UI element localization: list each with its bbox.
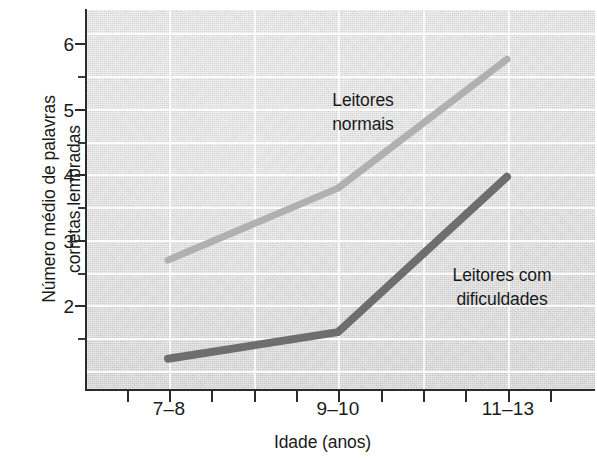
y-tick-label-4: 4: [34, 166, 74, 185]
series-label-leitores-normais: Leitores normais: [273, 88, 453, 136]
y-tick-label-2: 2: [34, 297, 74, 316]
series-lines: [87, 10, 595, 389]
x-tick-4: [254, 391, 256, 402]
y-tick-label-3: 3: [34, 232, 74, 251]
x-tick-label-9-10: 9–10: [278, 398, 398, 420]
x-axis-title: Idade (anos): [0, 432, 597, 453]
x-tick-label-11-13: 11–13: [448, 398, 568, 420]
x-axis-line: [85, 389, 595, 391]
y-tick-label-6: 6: [34, 35, 74, 54]
series-label-leitores-com-dificuldades: Leitores com dificuldades: [387, 263, 595, 311]
chart-figure: Número médio de palavras corretas lembra…: [0, 0, 597, 461]
x-tick-label-7-8: 7–8: [109, 398, 229, 420]
plot-area: Leitores normais Leitores com dificuldad…: [87, 10, 595, 389]
y-axis-title: Número médio de palavras corretas lembra…: [37, 19, 87, 379]
x-tick-8: [423, 391, 425, 402]
x-axis-title-text: Idade (anos): [274, 432, 371, 452]
y-tick-label-5: 5: [34, 101, 74, 120]
